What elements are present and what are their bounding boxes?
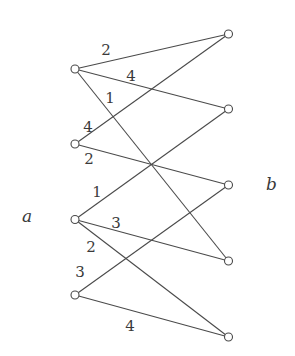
node-a1 bbox=[71, 65, 79, 73]
node-a4 bbox=[71, 291, 79, 299]
edge-a4-b5 bbox=[75, 295, 229, 337]
weight-label-a3-b4: 3 bbox=[111, 214, 121, 232]
weight-label-a1-b2: 4 bbox=[126, 67, 136, 85]
weight-label-a1-b1: 2 bbox=[101, 41, 111, 59]
node-b4 bbox=[225, 257, 233, 265]
node-b3 bbox=[225, 181, 233, 189]
edge-a3-b2 bbox=[75, 109, 229, 220]
node-a2 bbox=[71, 140, 79, 148]
node-b1 bbox=[225, 30, 233, 38]
bipartite-graph: 2414213234 a b bbox=[0, 0, 295, 356]
weight-label-a4-b3: 3 bbox=[75, 263, 85, 281]
node-a3 bbox=[71, 216, 79, 224]
weight-label-a4-b5: 4 bbox=[125, 317, 135, 335]
weight-label-a3-b5: 2 bbox=[86, 238, 96, 256]
set-label-a: a bbox=[22, 206, 32, 226]
weight-label-a1-b4: 1 bbox=[105, 89, 115, 107]
weight-label-a2-b3: 2 bbox=[84, 150, 94, 168]
weight-label-a3-b2: 1 bbox=[92, 183, 102, 201]
edge-a1-b1 bbox=[75, 34, 229, 69]
weight-label-a2-b1: 4 bbox=[83, 118, 93, 136]
weight-labels-layer: 2414213234 bbox=[75, 41, 136, 335]
set-label-b: b bbox=[266, 174, 277, 194]
node-b2 bbox=[225, 105, 233, 113]
edge-a2-b1 bbox=[75, 34, 229, 144]
node-b5 bbox=[225, 333, 233, 341]
